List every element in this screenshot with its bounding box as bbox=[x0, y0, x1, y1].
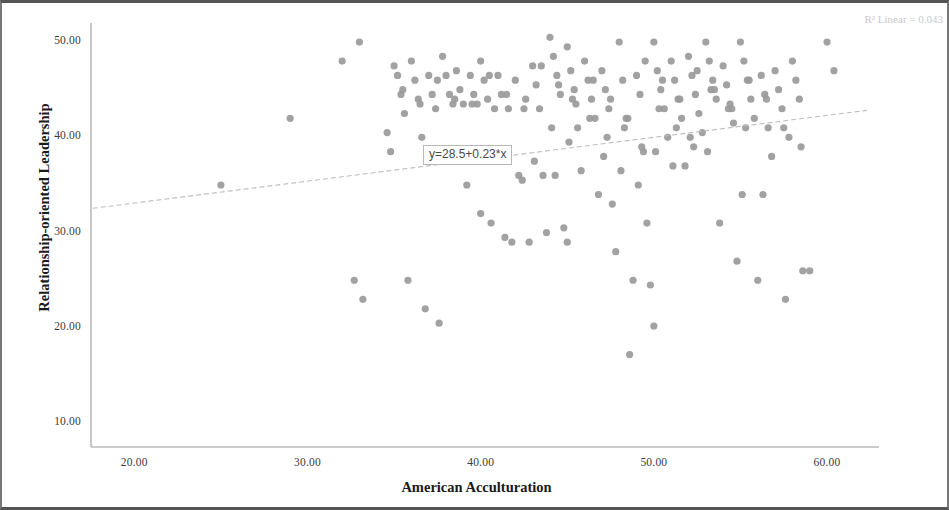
x-tick-label: 40.00 bbox=[451, 456, 511, 468]
scatter-plot: 10.0020.0030.0040.0050.00 20.0030.0040.0… bbox=[2, 3, 949, 510]
x-tick-label: 50.00 bbox=[624, 456, 684, 468]
figure-frame: 10.0020.0030.0040.0050.00 20.0030.0040.0… bbox=[0, 0, 949, 510]
x-tick-label: 20.00 bbox=[104, 456, 164, 468]
x-tick-label: 30.00 bbox=[277, 456, 337, 468]
x-tick-label: 60.00 bbox=[797, 456, 857, 468]
y-tick-label: 10.00 bbox=[29, 415, 81, 427]
y-axis-label: Relationship-oriented Leadership bbox=[36, 88, 53, 328]
x-axis-label: American Acculturation bbox=[2, 479, 949, 496]
equation-annotation: y=28.5+0.23*x bbox=[423, 145, 512, 165]
fit-line-layer bbox=[2, 3, 949, 510]
y-tick-label: 50.00 bbox=[29, 34, 81, 46]
r2-annotation: R² Linear = 0.043 bbox=[864, 13, 943, 25]
